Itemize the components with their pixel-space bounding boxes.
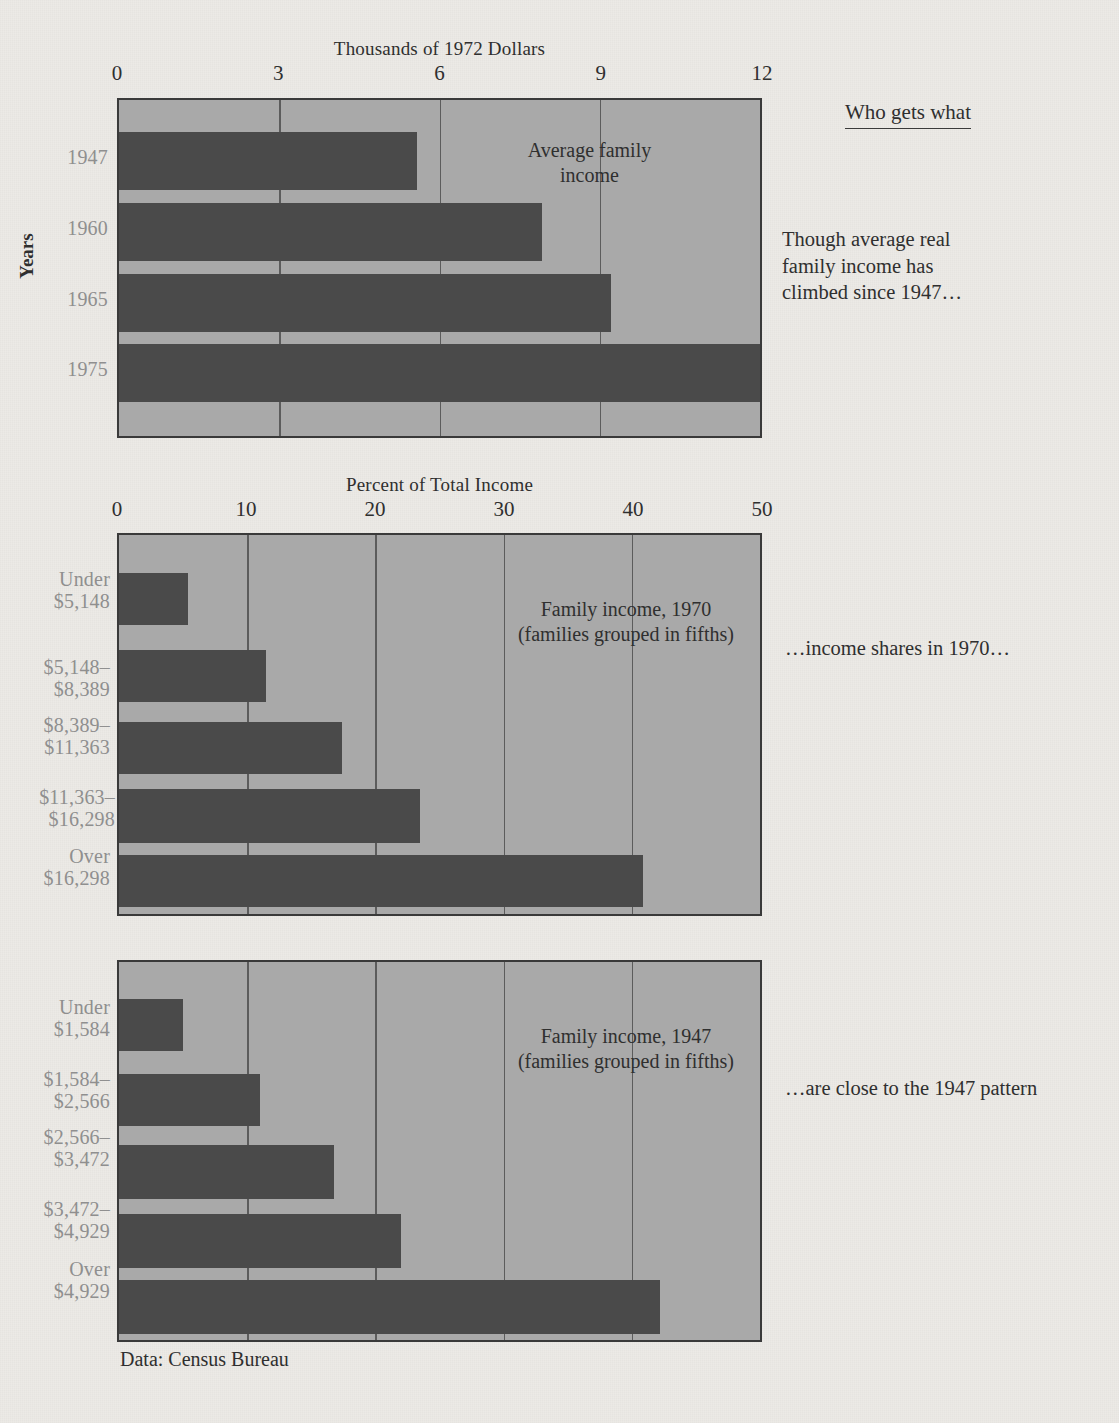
chart1-category-1947: 1947 [0,146,108,168]
chart2-tick-0: 0 [112,497,123,522]
chart3-category-under-1584-line2: $1,584 [0,1018,110,1040]
chart3-plot-area: Family income, 1947 (families grouped in… [117,960,762,1342]
chart2-tick-labels: 0 10 20 30 40 50 [117,498,762,522]
chart1-series-annotation-line2: income [440,163,740,188]
chart2-bar-5148-8389 [119,650,266,702]
chart3-bar-1584-2566 [119,1074,260,1126]
chart3-series-annotation-line2: (families grouped in fifths) [446,1049,762,1074]
chart2-series-annotation-line2: (families grouped in fifths) [446,622,762,647]
chart2-category-over-16298-line1: Over [0,845,110,867]
chart1-y-axis-label: Years [16,233,38,278]
chart2-plot-area: Family income, 1970 (families grouped in… [117,533,762,916]
chart2-bar-under-5148 [119,573,188,625]
side-note-1-line1: Though average real [782,226,1072,253]
side-note-1: Though average real family income has cl… [782,226,1072,306]
chart3-bar-2566-3472 [119,1145,334,1199]
chart2-tick-10: 10 [236,497,257,522]
chart2-bar-over-16298 [119,855,643,907]
chart2-bar-8389-11363 [119,722,342,774]
chart2-tick-30: 30 [494,497,515,522]
chart1-bar-1947 [119,132,417,190]
chart3-category-under-1584-line1: Under [0,996,110,1018]
chart3-category-over-4929-line1: Over [0,1258,110,1280]
chart1-bar-1965 [119,274,611,332]
chart1-category-1965: 1965 [0,288,108,310]
chart2-category-5148-8389-line1: $5,148– [0,656,110,678]
chart3-category-1584-2566: $1,584– $2,566 [0,1068,110,1113]
chart1-series-annotation-line1: Average family [440,138,740,163]
chart3-category-2566-3472: $2,566– $3,472 [0,1126,110,1171]
chart1-axis-title: Thousands of 1972 Dollars [117,38,762,60]
chart2-category-under-5148-line2: $5,148 [0,590,110,612]
chart2-category-11363-16298-line2: $16,298 [0,808,115,830]
source-note: Data: Census Bureau [120,1348,289,1371]
chart1-tick-3: 3 [273,61,284,86]
chart3-category-under-1584: Under $1,584 [0,996,110,1041]
chart2-category-5148-8389: $5,148– $8,389 [0,656,110,701]
chart1-bar-1960 [119,203,542,261]
chart2-bar-11363-16298 [119,789,420,843]
chart3-category-3472-4929: $3,472– $4,929 [0,1198,110,1243]
chart1-tick-0: 0 [112,61,123,86]
chart2-axis-title: Percent of Total Income [117,474,762,496]
chart1-category-1947-line1: 1947 [0,146,108,168]
chart2-category-11363-16298: $11,363– $16,298 [0,786,115,831]
chart2-tick-20: 20 [365,497,386,522]
chart2-tick-40: 40 [623,497,644,522]
chart1-tick-12: 12 [752,61,773,86]
side-note-3: …are close to the 1947 pattern [785,1075,1115,1102]
chart1-category-1960-line1: 1960 [0,217,108,239]
chart2-category-under-5148-line1: Under [0,568,110,590]
chart1-series-annotation: Average family income [440,138,740,188]
chart2-category-8389-11363: $8,389– $11,363 [0,714,110,759]
chart2-category-over-16298-line2: $16,298 [0,867,110,889]
chart3-category-3472-4929-line1: $3,472– [0,1198,110,1220]
chart2-series-annotation-line1: Family income, 1970 [446,597,762,622]
chart3-bar-under-1584 [119,999,183,1051]
chart2-category-8389-11363-line1: $8,389– [0,714,110,736]
chart1-tick-6: 6 [434,61,445,86]
chart3-category-1584-2566-line2: $2,566 [0,1090,110,1112]
chart2-series-annotation: Family income, 1970 (families grouped in… [446,597,762,647]
chart3-bar-over-4929 [119,1280,660,1334]
chart1-tick-labels: 0 3 6 9 12 [117,62,762,86]
chart2-category-5148-8389-line2: $8,389 [0,678,110,700]
chart1-plot-area: Average family income [117,98,762,438]
chart3-bar-3472-4929 [119,1214,401,1268]
figure-title: Who gets what [845,100,971,129]
chart2-category-under-5148: Under $5,148 [0,568,110,613]
chart1-tick-9: 9 [596,61,607,86]
chart3-series-annotation-line1: Family income, 1947 [446,1024,762,1049]
chart1-category-1975-line1: 1975 [0,358,108,380]
side-note-1-line3: climbed since 1947… [782,279,1072,306]
figure-stage: Thousands of 1972 Dollars 0 3 6 9 12 Yea… [0,0,1119,1423]
chart-average-family-income: Thousands of 1972 Dollars 0 3 6 9 12 Yea… [0,0,800,460]
chart3-category-over-4929-line2: $4,929 [0,1280,110,1302]
chart3-category-2566-3472-line2: $3,472 [0,1148,110,1170]
chart3-category-1584-2566-line1: $1,584– [0,1068,110,1090]
chart3-category-over-4929: Over $4,929 [0,1258,110,1303]
chart1-bar-1975 [119,344,760,402]
chart2-category-8389-11363-line2: $11,363 [0,736,110,758]
chart2-tick-50: 50 [752,497,773,522]
chart1-category-1965-line1: 1965 [0,288,108,310]
chart1-category-1960: 1960 [0,217,108,239]
chart1-category-1975: 1975 [0,358,108,380]
chart2-category-over-16298: Over $16,298 [0,845,110,890]
chart3-category-2566-3472-line1: $2,566– [0,1126,110,1148]
side-note-2: …income shares in 1970… [785,635,1095,662]
chart3-category-3472-4929-line2: $4,929 [0,1220,110,1242]
side-note-1-line2: family income has [782,253,1072,280]
chart3-series-annotation: Family income, 1947 (families grouped in… [446,1024,762,1074]
chart2-category-11363-16298-line1: $11,363– [0,786,115,808]
